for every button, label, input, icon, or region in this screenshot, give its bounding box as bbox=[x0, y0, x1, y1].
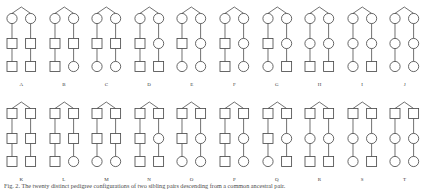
node-circle-female bbox=[68, 13, 78, 23]
pedigree-diagram-j: J bbox=[383, 2, 426, 88]
node-square-male bbox=[26, 39, 36, 49]
pedigree-diagram-p: P bbox=[213, 97, 256, 183]
node-circle-female bbox=[305, 38, 315, 48]
node-square-male bbox=[26, 156, 36, 166]
ancestral-mating-triangle-icon bbox=[395, 102, 414, 108]
node-circle-female bbox=[409, 156, 419, 166]
pedigree-diagram-a: A bbox=[0, 2, 43, 88]
pedigree-label: D bbox=[128, 82, 171, 88]
pedigree-diagram-g: G bbox=[256, 2, 299, 88]
node-circle-female bbox=[196, 156, 206, 166]
node-circle-female bbox=[324, 133, 334, 143]
pedigree-label: B bbox=[43, 82, 86, 88]
pedigree-diagram-d: D bbox=[128, 2, 171, 88]
node-square-male bbox=[135, 61, 145, 71]
node-circle-female bbox=[348, 156, 358, 166]
figure-caption: Fig. 2. The twenty distinct pedigree con… bbox=[4, 182, 434, 189]
pedigree-diagram-q: Q bbox=[256, 97, 299, 183]
node-square-male bbox=[281, 109, 291, 119]
ancestral-mating-triangle-icon bbox=[55, 7, 74, 13]
node-square-male bbox=[7, 109, 17, 119]
node-square-male bbox=[50, 134, 60, 144]
node-circle-female bbox=[238, 156, 248, 166]
pedigree-label: C bbox=[85, 82, 128, 88]
ancestral-mating-triangle-icon bbox=[225, 102, 244, 108]
pedigree-label: I bbox=[341, 82, 384, 88]
node-circle-female bbox=[196, 133, 206, 143]
node-square-male bbox=[281, 156, 291, 166]
node-square-male bbox=[111, 39, 121, 49]
node-square-male bbox=[220, 134, 230, 144]
ancestral-mating-triangle-icon bbox=[12, 7, 31, 13]
node-square-male bbox=[196, 109, 206, 119]
node-circle-female bbox=[390, 156, 400, 166]
node-square-male bbox=[26, 134, 36, 144]
node-circle-female bbox=[92, 61, 102, 71]
node-square-male bbox=[324, 156, 334, 166]
node-circle-female bbox=[153, 38, 163, 48]
node-circle-female bbox=[366, 38, 376, 48]
node-circle-female bbox=[177, 13, 187, 23]
node-square-male bbox=[7, 39, 17, 49]
pedigree-diagram-n: N bbox=[128, 97, 171, 183]
ancestral-mating-triangle-icon bbox=[182, 7, 201, 13]
node-square-male bbox=[220, 39, 230, 49]
node-square-male bbox=[263, 109, 273, 119]
ancestral-mating-triangle-icon bbox=[140, 102, 159, 108]
ancestral-mating-triangle-icon bbox=[353, 102, 372, 108]
node-circle-female bbox=[281, 13, 291, 23]
node-circle-female bbox=[281, 38, 291, 48]
node-circle-female bbox=[177, 156, 187, 166]
node-circle-female bbox=[348, 61, 358, 71]
node-square-male bbox=[68, 39, 78, 49]
node-square-male bbox=[68, 109, 78, 119]
node-circle-female bbox=[68, 61, 78, 71]
node-square-male bbox=[50, 156, 60, 166]
node-circle-female bbox=[49, 13, 59, 23]
node-square-male bbox=[220, 156, 230, 166]
pedigree-label: A bbox=[0, 82, 43, 88]
node-circle-female bbox=[324, 38, 334, 48]
node-square-male bbox=[153, 156, 163, 166]
pedigree-row-bottom: KLMNOPQRST bbox=[0, 97, 446, 185]
node-circle-female bbox=[348, 13, 358, 23]
node-circle-female bbox=[409, 38, 419, 48]
pedigree-row-top: ABCDEFGHIJ bbox=[0, 2, 446, 90]
ancestral-mating-triangle-icon bbox=[97, 102, 116, 108]
node-square-male bbox=[26, 109, 36, 119]
node-circle-female bbox=[305, 13, 315, 23]
pedigree-label: E bbox=[170, 82, 213, 88]
node-square-male bbox=[305, 109, 315, 119]
node-circle-female bbox=[111, 156, 121, 166]
node-square-male bbox=[50, 61, 60, 71]
node-square-male bbox=[153, 109, 163, 119]
pedigree-label: J bbox=[383, 82, 426, 88]
node-square-male bbox=[135, 156, 145, 166]
node-square-male bbox=[111, 109, 121, 119]
node-square-male bbox=[92, 109, 102, 119]
node-square-male bbox=[177, 39, 187, 49]
pedigree-diagram-h: H bbox=[298, 2, 341, 88]
node-circle-female bbox=[390, 133, 400, 143]
node-circle-female bbox=[409, 133, 419, 143]
node-circle-female bbox=[111, 61, 121, 71]
node-square-male bbox=[68, 134, 78, 144]
node-circle-female bbox=[409, 13, 419, 23]
node-square-male bbox=[263, 134, 273, 144]
ancestral-mating-triangle-icon bbox=[268, 102, 287, 108]
node-square-male bbox=[7, 61, 17, 71]
pedigree-diagram-r: R bbox=[298, 97, 341, 183]
node-square-male bbox=[263, 39, 273, 49]
ancestral-mating-triangle-icon bbox=[225, 7, 244, 13]
node-circle-female bbox=[262, 156, 272, 166]
node-circle-female bbox=[196, 61, 206, 71]
node-circle-female bbox=[324, 13, 334, 23]
node-circle-female bbox=[305, 133, 315, 143]
node-circle-female bbox=[366, 13, 376, 23]
node-square-male bbox=[177, 134, 187, 144]
node-circle-female bbox=[238, 13, 248, 23]
node-circle-female bbox=[68, 156, 78, 166]
ancestral-mating-triangle-icon bbox=[140, 7, 159, 13]
node-square-male bbox=[305, 156, 315, 166]
node-circle-female bbox=[348, 38, 358, 48]
